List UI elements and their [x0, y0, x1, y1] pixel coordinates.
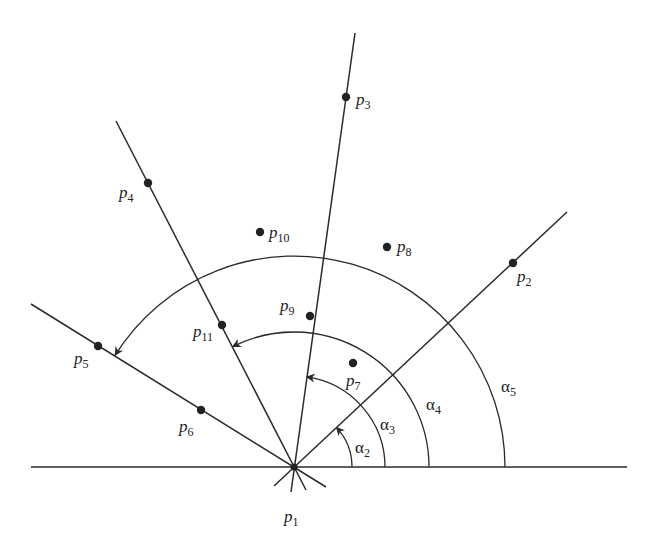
point-p7 — [349, 359, 357, 367]
point-p8 — [383, 243, 391, 251]
label-p2: p2 — [517, 268, 532, 288]
point-p5 — [94, 342, 102, 350]
label-p7: p7 — [346, 372, 361, 392]
angle-arcs — [115, 256, 505, 467]
label-p10: p10 — [269, 224, 290, 244]
point-p4 — [144, 179, 152, 187]
arc-alpha5 — [115, 256, 505, 467]
point-p10 — [256, 228, 264, 236]
ray-p4 — [116, 121, 306, 490]
label-alpha4: α4 — [426, 396, 441, 416]
ray-p5 — [31, 304, 326, 487]
label-p5: p5 — [74, 350, 89, 370]
label-alpha2: α2 — [355, 439, 370, 459]
label-alpha3: α3 — [380, 416, 395, 436]
label-alpha5: α5 — [501, 378, 516, 398]
ray-p2 — [274, 212, 567, 486]
label-p11: p11 — [193, 323, 213, 343]
label-p9: p9 — [280, 297, 295, 317]
point-p2 — [509, 259, 517, 267]
label-p4: p4 — [119, 184, 134, 204]
arc-alpha2 — [336, 427, 352, 467]
point-p9 — [306, 312, 314, 320]
point-p3 — [342, 93, 350, 101]
angular-sort-diagram — [0, 0, 655, 544]
label-p8: p8 — [397, 238, 412, 258]
points — [94, 93, 517, 471]
point-p1 — [291, 464, 298, 471]
label-p3: p3 — [356, 91, 371, 111]
label-p1: p1 — [284, 508, 299, 528]
rays — [31, 33, 567, 492]
label-p6: p6 — [179, 418, 194, 438]
point-p6 — [197, 406, 205, 414]
point-p11 — [218, 321, 226, 329]
